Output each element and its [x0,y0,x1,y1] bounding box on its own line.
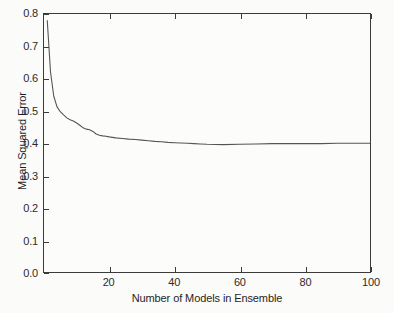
mse-curve [47,20,370,144]
x-axis-title: Number of Models in Ensemble [43,292,371,304]
y-tick-mark [44,14,49,15]
x-tick-mark [175,267,176,272]
y-tick-mark [44,79,49,80]
y-tick-label: 0.1 [4,235,38,246]
x-tick-mark-top [241,14,242,19]
x-tick-mark-top [175,14,176,19]
x-tick-mark-top [371,14,372,19]
y-tick-mark [44,273,49,274]
y-tick-label: 0.8 [4,8,38,19]
x-tick-label: 60 [234,277,246,288]
x-tick-label: 100 [362,277,380,288]
x-tick-label: 40 [168,277,180,288]
y-tick-mark [44,47,49,48]
y-tick-mark [44,112,49,113]
y-tick-mark [44,177,49,178]
x-tick-mark [241,267,242,272]
x-tick-mark-top [110,14,111,19]
y-tick-mark [44,209,49,210]
x-tick-label: 80 [299,277,311,288]
x-axis-tick-labels: 20406080100 [43,277,371,293]
x-tick-mark [110,267,111,272]
plot-area [43,13,371,273]
y-tick-label: 0.0 [4,268,38,279]
y-axis-title: Mean Squared Error [16,61,28,221]
x-tick-mark [371,267,372,272]
y-tick-label: 0.7 [4,40,38,51]
x-tick-label: 20 [103,277,115,288]
x-tick-mark [306,267,307,272]
line-series-svg [44,14,370,272]
y-tick-mark [44,144,49,145]
chart-figure: 0.00.10.20.30.40.50.60.70.8 20406080100 … [0,0,394,313]
y-tick-mark [44,242,49,243]
x-tick-mark-top [306,14,307,19]
